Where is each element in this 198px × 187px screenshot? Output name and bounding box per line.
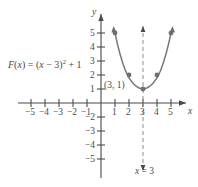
x-tick-label-1: −4 xyxy=(39,108,49,118)
y-axis xyxy=(98,14,103,178)
x-axis-label: x xyxy=(188,107,192,117)
x-axis xyxy=(18,100,186,105)
axis-of-symmetry-line xyxy=(141,26,146,171)
y-tick-label-8: −5 xyxy=(85,155,95,165)
x-tick-label-2: −3 xyxy=(53,108,63,118)
y-tick-label-5: −2 xyxy=(85,113,95,123)
vertex-annotation: (3, 1) xyxy=(104,81,125,91)
axis-of-symmetry-annotation: x = 3 xyxy=(135,167,154,177)
point-1-5 xyxy=(113,31,118,36)
y-axis-arrow xyxy=(98,14,103,21)
x-tick-label-6: 2 xyxy=(126,108,131,118)
y-tick-label-1: 4 xyxy=(90,43,95,53)
y-tick-label-2: 3 xyxy=(90,57,95,67)
x-tick-label-0: −5 xyxy=(25,108,35,118)
y-tick-label-3: 2 xyxy=(90,71,95,81)
x-tick-label-9: 5 xyxy=(168,108,173,118)
y-tick-label-7: −4 xyxy=(85,141,95,151)
x-tick-label-5: 1 xyxy=(112,108,117,118)
x-tick-label-7: 3 xyxy=(140,108,145,118)
point-4-2 xyxy=(155,73,160,78)
x-axis-arrow xyxy=(179,100,186,105)
y-tick-label-4: 1 xyxy=(90,85,95,95)
y-tick-label-6: −3 xyxy=(85,127,95,137)
function-equation-label: F(x) = (x − 3)2 + 1 xyxy=(8,60,82,70)
y-axis-label: y xyxy=(92,8,96,18)
x-tick-label-3: −2 xyxy=(67,108,77,118)
symmetry-arrow-up xyxy=(141,26,146,32)
graph-figure: F(x) = (x − 3)2 + 1 y x (3, 1) x = 3 −5−… xyxy=(0,0,198,187)
plot-canvas xyxy=(0,0,198,187)
point-2-2 xyxy=(127,73,132,78)
point-3-1 xyxy=(141,87,146,92)
y-tick-label-0: 5 xyxy=(90,29,95,39)
x-tick-label-8: 4 xyxy=(154,108,159,118)
point-5-5 xyxy=(169,31,174,36)
